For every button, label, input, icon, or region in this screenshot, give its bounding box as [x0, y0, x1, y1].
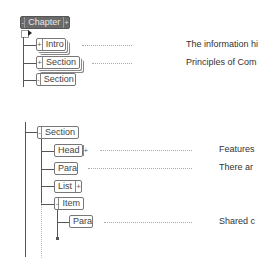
- node-description: Shared c: [219, 216, 261, 226]
- connector-line: [23, 63, 36, 64]
- end-marker-icon: [56, 237, 59, 240]
- item-node[interactable]: - Item: [54, 197, 84, 210]
- connector-line: [41, 169, 54, 170]
- connector-line: [57, 222, 69, 223]
- node-description: There ar: [219, 162, 261, 172]
- node-label: Intro: [43, 39, 67, 50]
- list-node[interactable]: List +: [54, 180, 82, 193]
- node-description: Features: [219, 144, 261, 154]
- leader-line: [92, 63, 132, 64]
- chapter-node[interactable]: - Chapter +: [20, 16, 70, 29]
- node-label: Chapter: [25, 17, 63, 28]
- connector-line: [23, 80, 36, 81]
- node-label: Head: [55, 145, 83, 156]
- head-node[interactable]: Head +: [54, 144, 83, 157]
- leader-line: [82, 45, 132, 46]
- intro-node[interactable]: + Intro: [36, 38, 66, 51]
- connector-line: [25, 132, 37, 133]
- node-label: Section: [43, 57, 79, 68]
- section-node[interactable]: - Section: [37, 126, 79, 139]
- node-label: Para: [70, 216, 95, 227]
- connector-line: [23, 45, 36, 46]
- node-description: The information hi: [186, 39, 261, 49]
- node-label: List: [55, 181, 75, 192]
- node-description: Principles of Com: [186, 57, 261, 67]
- connector-line: [57, 210, 58, 238]
- connector-line: [41, 186, 54, 187]
- expand-toggle[interactable]: +: [75, 181, 81, 192]
- connector-line: [25, 122, 26, 257]
- node-label: Item: [59, 198, 83, 209]
- leader-line: [100, 150, 192, 151]
- expand-toggle[interactable]: +: [63, 17, 69, 28]
- para-node[interactable]: Para: [69, 215, 93, 228]
- pointer-arrow-icon: [28, 30, 32, 36]
- connector-line: [41, 204, 54, 205]
- leader-line: [104, 222, 192, 223]
- expand-toggle[interactable]: +: [83, 145, 89, 156]
- section-node[interactable]: - Section: [36, 73, 76, 86]
- dotted-connector: [41, 203, 42, 258]
- node-label: Para: [55, 163, 80, 174]
- leader-line: [88, 168, 192, 169]
- section-node[interactable]: + Section: [36, 56, 80, 69]
- node-label: Section: [41, 74, 77, 85]
- para-node[interactable]: Para: [54, 162, 78, 175]
- node-label: Section: [42, 127, 78, 138]
- connector-line: [41, 151, 54, 152]
- connector-line: [41, 139, 42, 203]
